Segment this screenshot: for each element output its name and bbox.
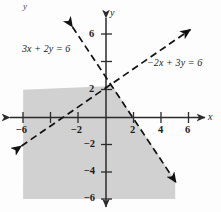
line-1-equation-label: 3x + 2y = 6: [22, 44, 70, 54]
x-axis-label: x: [208, 112, 212, 122]
y-tick-label-neg2: −2: [84, 139, 95, 150]
line-2-equation-label: −2x + 3y = 6: [147, 58, 202, 68]
y-axis-label: y: [110, 8, 114, 18]
x-tick-label-neg2: −2: [71, 125, 82, 136]
y-tick-label-2: 2: [89, 84, 94, 95]
graph-figure: y: [0, 0, 221, 212]
x-tick-label-4: 4: [158, 125, 163, 136]
shaded-solution-region: [23, 86, 175, 199]
x-tick-label-2: 2: [130, 125, 135, 136]
y-tick-label-neg6: −6: [84, 193, 95, 204]
y-tick-label-6: 6: [89, 29, 94, 40]
x-tick-label-neg6: −6: [16, 125, 27, 136]
x-tick-label-6: 6: [185, 125, 190, 136]
y-tick-label-neg4: −4: [84, 166, 95, 177]
coordinate-plane: [0, 0, 221, 212]
